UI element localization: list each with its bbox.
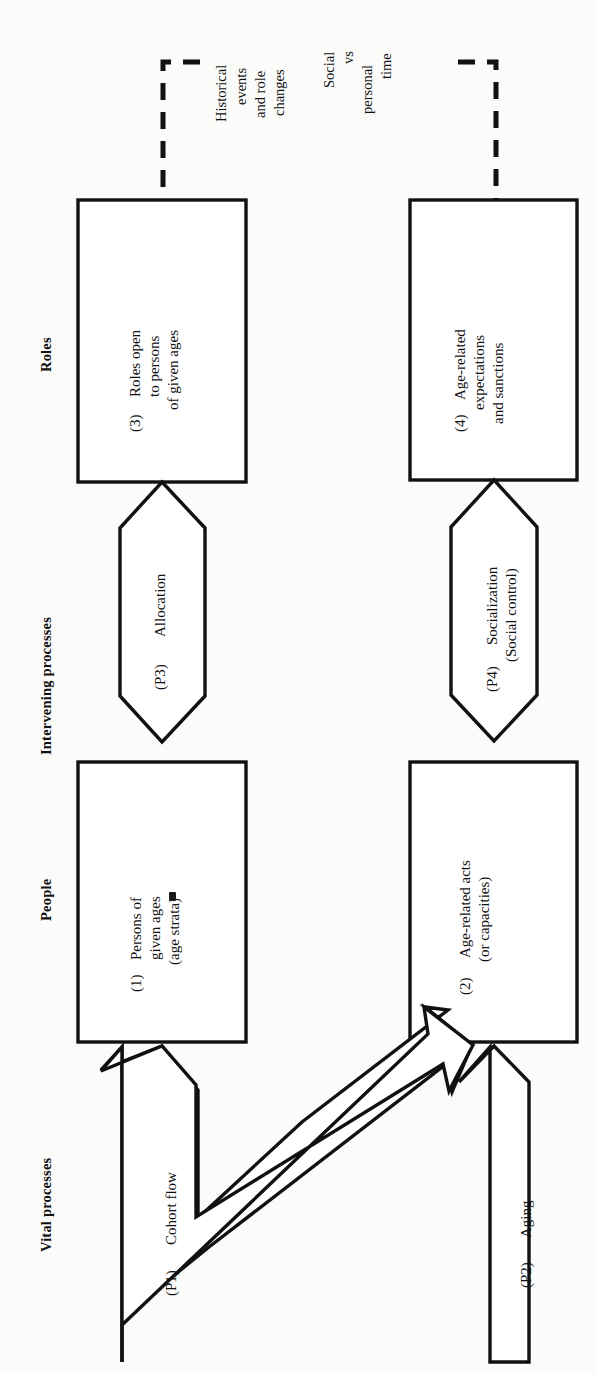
annotation-historical-line-1: Historical <box>213 65 230 122</box>
annotation-social-line-2: vs <box>340 51 357 64</box>
figure-canvas: Roles Intervening processes People Vital… <box>0 0 595 1374</box>
box-3-line-1: Roles open <box>127 330 144 397</box>
annotation-historical-line-3: and role <box>252 71 269 118</box>
hexagon-p4-line-1: Socialization <box>484 567 501 645</box>
block-arrow-p2-number: (P2) <box>518 1262 535 1288</box>
column-header-vital-processes: Vital processes <box>38 1158 55 1252</box>
box-2-number: (2) <box>457 978 474 996</box>
hexagon-p4-line-2: (Social control) <box>503 568 520 662</box>
box-3-line-3: of given ages <box>165 330 182 410</box>
dashed-connector-social-time <box>458 62 496 200</box>
shapes-layer <box>0 0 595 1374</box>
annotation-social-line-3: personal <box>359 65 376 114</box>
block-arrow-p2-label: Aging <box>518 1201 535 1239</box>
hexagon-p4-number: (P4) <box>484 666 501 692</box>
box-4-line-3: and sanctions <box>490 343 507 424</box>
box-2-line-2: (or capacities) <box>476 877 493 962</box>
annotation-historical-line-4: changes <box>271 69 288 116</box>
box-1-number: (1) <box>128 975 145 993</box>
column-header-intervening-processes: Intervening processes <box>38 617 55 755</box>
box-4-number: (4) <box>452 415 469 433</box>
box-1-line-3: (age strata) <box>166 898 183 965</box>
dashed-connector-historical <box>163 62 200 200</box>
box-4-shape <box>410 200 577 480</box>
box-2-line-1: Age-related acts <box>457 860 474 958</box>
box-3-number: (3) <box>127 415 144 433</box>
annotation-social-line-1: Social <box>321 52 338 88</box>
hexagon-p3-label: Allocation <box>152 574 169 637</box>
block-arrow-p1-label: Cohort flow <box>163 1172 180 1245</box>
box-4-line-2: expectations <box>471 335 488 410</box>
ink-blot-artifact <box>169 892 176 901</box>
box-1-line-2: given ages <box>147 896 164 960</box>
annotation-social-line-4: time <box>378 53 395 79</box>
block-arrow-p1-number: (P1) <box>163 1270 180 1296</box>
hexagon-p3-number: (P3) <box>152 664 169 690</box>
annotation-historical-line-2: events <box>233 68 250 105</box>
box-1-line-1: Persons of <box>128 897 145 960</box>
column-header-people: People <box>38 879 55 921</box>
box-4-line-1: Age-related <box>452 329 469 400</box>
box-2-shape <box>410 762 577 1042</box>
box-3-line-2: to persons <box>146 336 163 397</box>
column-header-roles: Roles <box>38 337 55 372</box>
